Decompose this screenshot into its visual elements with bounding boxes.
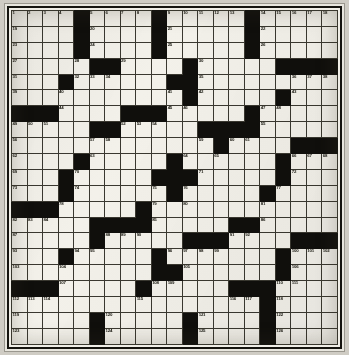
crossword-cell[interactable] bbox=[136, 328, 152, 344]
crossword-cell[interactable] bbox=[182, 26, 198, 42]
crossword-cell[interactable] bbox=[74, 122, 90, 138]
crossword-cell[interactable] bbox=[291, 122, 307, 138]
crossword-cell[interactable] bbox=[244, 249, 260, 265]
crossword-cell[interactable] bbox=[260, 74, 276, 90]
crossword-cell[interactable] bbox=[105, 249, 121, 265]
crossword-cell[interactable] bbox=[213, 74, 229, 90]
crossword-cell[interactable] bbox=[74, 281, 90, 297]
crossword-cell[interactable] bbox=[182, 217, 198, 233]
crossword-cell[interactable]: 31 bbox=[12, 74, 28, 90]
crossword-cell[interactable] bbox=[89, 90, 105, 106]
crossword-cell[interactable]: 5 bbox=[89, 11, 105, 27]
crossword-cell[interactable]: 67 bbox=[306, 154, 322, 170]
crossword-cell[interactable]: 125 bbox=[198, 328, 214, 344]
crossword-cell[interactable]: 111 bbox=[291, 281, 307, 297]
crossword-cell[interactable] bbox=[306, 169, 322, 185]
crossword-cell[interactable]: 104 bbox=[58, 265, 74, 281]
crossword-cell[interactable] bbox=[167, 233, 183, 249]
crossword-cell[interactable]: 44 bbox=[58, 106, 74, 122]
crossword-cell[interactable]: 24 bbox=[89, 42, 105, 58]
crossword-cell[interactable]: 109 bbox=[167, 281, 183, 297]
crossword-cell[interactable]: 96 bbox=[167, 249, 183, 265]
crossword-cell[interactable] bbox=[213, 265, 229, 281]
crossword-cell[interactable] bbox=[275, 74, 291, 90]
crossword-cell[interactable]: 99 bbox=[213, 249, 229, 265]
crossword-cell[interactable] bbox=[322, 297, 338, 313]
crossword-cell[interactable] bbox=[198, 42, 214, 58]
crossword-cell[interactable] bbox=[136, 58, 152, 74]
crossword-cell[interactable]: 23 bbox=[12, 42, 28, 58]
crossword-cell[interactable] bbox=[120, 328, 136, 344]
crossword-cell[interactable] bbox=[43, 74, 59, 90]
crossword-cell[interactable] bbox=[213, 106, 229, 122]
crossword-cell[interactable]: 118 bbox=[275, 297, 291, 313]
crossword-cell[interactable] bbox=[136, 74, 152, 90]
crossword-cell[interactable]: 41 bbox=[167, 90, 183, 106]
crossword-cell[interactable]: 8 bbox=[136, 11, 152, 27]
crossword-cell[interactable]: 114 bbox=[43, 297, 59, 313]
crossword-cell[interactable]: 92 bbox=[244, 233, 260, 249]
crossword-cell[interactable]: 108 bbox=[151, 281, 167, 297]
crossword-cell[interactable]: 37 bbox=[306, 74, 322, 90]
crossword-cell[interactable] bbox=[244, 169, 260, 185]
crossword-cell[interactable]: 25 bbox=[167, 42, 183, 58]
crossword-cell[interactable] bbox=[43, 138, 59, 154]
crossword-cell[interactable] bbox=[260, 154, 276, 170]
crossword-cell[interactable]: 45 bbox=[167, 106, 183, 122]
crossword-cell[interactable]: 77 bbox=[275, 185, 291, 201]
crossword-cell[interactable] bbox=[244, 74, 260, 90]
crossword-cell[interactable] bbox=[27, 249, 43, 265]
crossword-cell[interactable] bbox=[58, 58, 74, 74]
crossword-cell[interactable] bbox=[151, 154, 167, 170]
crossword-cell[interactable]: 34 bbox=[105, 74, 121, 90]
crossword-cell[interactable]: 7 bbox=[120, 11, 136, 27]
crossword-cell[interactable] bbox=[120, 154, 136, 170]
crossword-cell[interactable]: 12 bbox=[213, 11, 229, 27]
crossword-cell[interactable] bbox=[120, 42, 136, 58]
crossword-cell[interactable]: 16 bbox=[291, 11, 307, 27]
crossword-cell[interactable] bbox=[322, 312, 338, 328]
crossword-cell[interactable] bbox=[213, 42, 229, 58]
crossword-cell[interactable] bbox=[306, 312, 322, 328]
crossword-cell[interactable] bbox=[120, 169, 136, 185]
crossword-cell[interactable]: 11 bbox=[198, 11, 214, 27]
crossword-cell[interactable] bbox=[120, 26, 136, 42]
crossword-cell[interactable]: 121 bbox=[198, 312, 214, 328]
crossword-cell[interactable] bbox=[322, 328, 338, 344]
crossword-cell[interactable]: 32 bbox=[74, 74, 90, 90]
crossword-cell[interactable] bbox=[275, 233, 291, 249]
crossword-cell[interactable] bbox=[136, 265, 152, 281]
crossword-cell[interactable]: 1 bbox=[12, 11, 28, 27]
crossword-cell[interactable]: 112 bbox=[12, 297, 28, 313]
crossword-cell[interactable]: 55 bbox=[260, 122, 276, 138]
crossword-cell[interactable] bbox=[58, 122, 74, 138]
crossword-cell[interactable] bbox=[306, 265, 322, 281]
crossword-cell[interactable] bbox=[105, 281, 121, 297]
crossword-cell[interactable] bbox=[151, 233, 167, 249]
crossword-cell[interactable] bbox=[213, 312, 229, 328]
crossword-cell[interactable]: 4 bbox=[58, 11, 74, 27]
crossword-cell[interactable] bbox=[58, 233, 74, 249]
crossword-cell[interactable]: 40 bbox=[58, 90, 74, 106]
crossword-cell[interactable]: 3 bbox=[43, 11, 59, 27]
crossword-cell[interactable] bbox=[58, 217, 74, 233]
crossword-cell[interactable] bbox=[244, 154, 260, 170]
crossword-cell[interactable] bbox=[27, 265, 43, 281]
crossword-cell[interactable] bbox=[120, 312, 136, 328]
crossword-cell[interactable] bbox=[213, 26, 229, 42]
crossword-cell[interactable]: 124 bbox=[105, 328, 121, 344]
crossword-cell[interactable] bbox=[120, 265, 136, 281]
crossword-cell[interactable]: 20 bbox=[89, 26, 105, 42]
crossword-cell[interactable] bbox=[167, 328, 183, 344]
crossword-cell[interactable] bbox=[120, 249, 136, 265]
crossword-cell[interactable] bbox=[182, 122, 198, 138]
crossword-cell[interactable] bbox=[182, 42, 198, 58]
crossword-cell[interactable] bbox=[136, 169, 152, 185]
crossword-cell[interactable]: 95 bbox=[89, 249, 105, 265]
crossword-cell[interactable] bbox=[89, 265, 105, 281]
crossword-cell[interactable] bbox=[291, 312, 307, 328]
crossword-cell[interactable]: 14 bbox=[260, 11, 276, 27]
crossword-cell[interactable] bbox=[306, 122, 322, 138]
crossword-cell[interactable]: 113 bbox=[27, 297, 43, 313]
crossword-cell[interactable] bbox=[322, 90, 338, 106]
